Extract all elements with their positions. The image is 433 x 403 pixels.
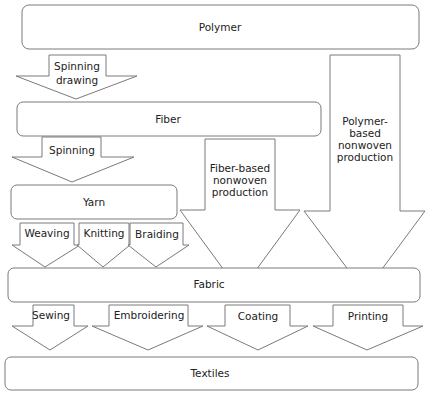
arrow-polymer-nonwoven-label-2: based [349,127,381,139]
node-fabric-label: Fabric [193,278,224,290]
node-polymer-label: Polymer [199,21,242,33]
node-yarn-label: Yarn [82,196,105,208]
node-fiber: Fiber [17,102,321,136]
node-fabric: Fabric [8,268,420,302]
arrow-spinning: Spinning [12,137,134,182]
node-yarn: Yarn [11,185,177,219]
arrow-fiber-nonwoven-label-1: Fiber-based [210,162,270,174]
arrow-knitting: Knitting [77,223,130,267]
arrow-knitting-label: Knitting [84,227,125,239]
arrow-spinning-label: Spinning [49,144,95,156]
arrow-weaving: Weaving [12,223,80,267]
arrow-spinning-drawing-label-1: Spinning [54,60,100,72]
arrow-braiding-label: Braiding [135,228,179,240]
textile-process-diagram: Polymer Spinning drawing Polymer- based … [0,0,433,403]
arrow-spinning-drawing-label-2: drawing [56,74,98,86]
arrow-polymer-based-nonwoven: Polymer- based nonwoven production [304,55,425,292]
arrow-polymer-nonwoven-label-3: nonwoven [338,139,392,151]
arrow-fiber-nonwoven-label-2: nonwoven [213,174,267,186]
node-polymer: Polymer [22,5,419,49]
arrow-printing: Printing [313,305,423,350]
arrow-embroidering: Embroidering [92,305,203,350]
arrow-weaving-label: Weaving [24,227,69,239]
arrow-coating-label: Coating [238,310,279,322]
arrow-polymer-nonwoven-label-1: Polymer- [342,115,388,127]
arrow-braiding: Braiding [128,223,189,267]
node-textiles: Textiles [5,357,418,390]
arrow-coating: Coating [207,305,308,350]
arrow-printing-label: Printing [348,310,388,322]
arrow-fiber-nonwoven-label-3: production [212,186,268,198]
arrow-embroidering-label: Embroidering [114,309,185,321]
arrow-sewing: Sewing [12,305,88,350]
node-textiles-label: Textiles [189,367,229,379]
arrow-polymer-nonwoven-label-4: production [337,151,393,163]
arrow-spinning-drawing: Spinning drawing [16,55,137,99]
arrow-sewing-label: Sewing [32,309,70,321]
node-fiber-label: Fiber [155,113,181,125]
